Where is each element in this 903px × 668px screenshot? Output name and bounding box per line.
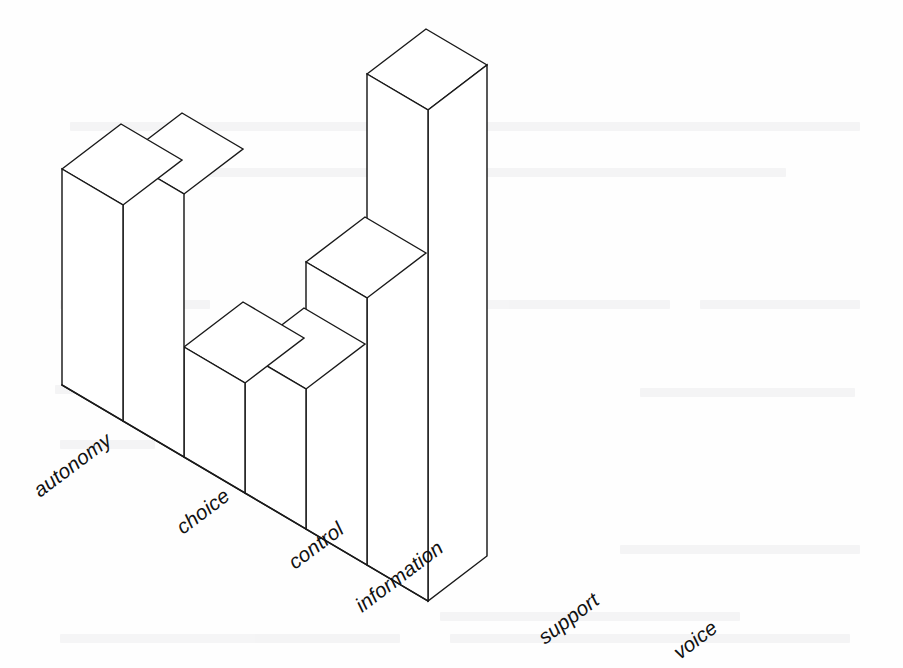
category-label-choice: choice <box>172 483 234 538</box>
bar-chart-canvas: autonomychoicecontrolinformationsupportv… <box>0 0 903 668</box>
category-label-autonomy: autonomy <box>29 427 117 501</box>
bar-voice[interactable] <box>367 29 487 601</box>
bar-side-face-voice <box>428 65 487 601</box>
figure-root: autonomychoicecontrolinformationsupportv… <box>0 0 903 668</box>
bars-group <box>62 29 487 601</box>
bar-front-face-support <box>306 262 367 565</box>
bar-front-face-choice <box>123 158 184 457</box>
bar-front-face-voice <box>367 74 428 601</box>
category-label-voice: voice <box>669 615 722 663</box>
category-label-support: support <box>534 587 604 648</box>
bar-front-face-autonomy <box>62 169 123 421</box>
